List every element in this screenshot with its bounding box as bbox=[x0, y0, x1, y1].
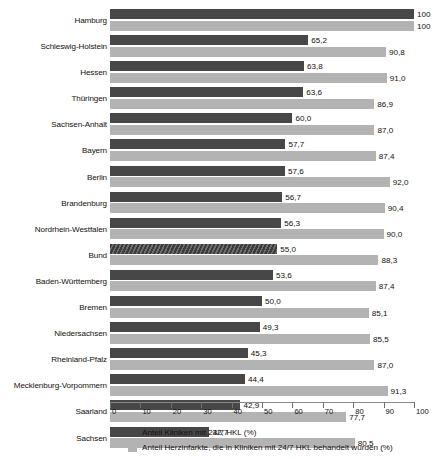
bar-group: 63,686,9 bbox=[110, 87, 374, 110]
chart-row: Thüringen63,686,9 bbox=[0, 86, 437, 112]
x-axis-tick bbox=[110, 402, 111, 408]
x-axis-tick-label: 90 bbox=[386, 407, 394, 416]
legend-swatch-icon bbox=[128, 428, 137, 437]
bar-series-2: 87,0 bbox=[110, 360, 374, 370]
bar-series-2: 91,3 bbox=[110, 386, 388, 396]
bar-series-1: 49,3 bbox=[110, 322, 260, 332]
chart-row: Schleswig-Holstein65,290,8 bbox=[0, 34, 437, 60]
bar-value-label: 56,3 bbox=[284, 218, 300, 227]
chart-row: Bund55,088,3 bbox=[0, 243, 437, 269]
legend-item[interactable]: Anteil Kliniken mit 24/7 HKL (%) bbox=[128, 425, 393, 440]
bar-series-1: 65,2 bbox=[110, 35, 308, 45]
bar-value-label: 91,3 bbox=[391, 386, 407, 395]
bar-group: 60,087,0 bbox=[110, 113, 374, 136]
bar-series-1: 50,0 bbox=[110, 296, 262, 306]
chart-row: Hessen63,891,0 bbox=[0, 60, 437, 86]
bar-group: 44,491,3 bbox=[110, 374, 388, 397]
x-axis: 0102030405060708090100 bbox=[110, 402, 414, 418]
bar-value-label: 53,6 bbox=[276, 270, 292, 279]
bar-series-1: 57,7 bbox=[110, 139, 285, 149]
bar-value-label: 85,5 bbox=[373, 334, 389, 343]
chart-row: Hamburg100100 bbox=[0, 8, 437, 34]
bar-value-label: 90,8 bbox=[389, 47, 405, 56]
x-axis-tick-label: 20 bbox=[173, 407, 181, 416]
bar-value-label: 100 bbox=[417, 10, 431, 19]
chart-row: Bremen50,085,1 bbox=[0, 295, 437, 321]
bar-series-2: 90,8 bbox=[110, 47, 386, 57]
bar-series-1: 44,4 bbox=[110, 374, 245, 384]
bar-group: 56,390,0 bbox=[110, 218, 384, 241]
bar-series-1: 100 bbox=[110, 9, 414, 19]
bar-series-1: 45,3 bbox=[110, 348, 248, 358]
x-axis-tick-label: 100 bbox=[416, 407, 429, 416]
x-axis-tick bbox=[414, 402, 415, 408]
chart-row: Rheinland-Pfalz45,387,0 bbox=[0, 347, 437, 373]
x-axis-tick-label: 50 bbox=[264, 407, 272, 416]
bar-value-label: 57,7 bbox=[288, 140, 304, 149]
bar-group: 50,085,1 bbox=[110, 296, 369, 319]
legend-item[interactable]: Anteil Herzinfarkte, die in Kliniken mit… bbox=[128, 440, 393, 455]
chart-row: Niedersachsen49,385,5 bbox=[0, 321, 437, 347]
chart-row: Nordrhein-Westfalen56,390,0 bbox=[0, 217, 437, 243]
bar-value-label: 91,0 bbox=[390, 73, 406, 82]
category-label: Baden-Württemberg bbox=[36, 269, 107, 295]
bar-group: 65,290,8 bbox=[110, 35, 386, 58]
category-label: Berlin bbox=[87, 165, 107, 191]
bar-value-label: 100 bbox=[417, 21, 431, 30]
chart-row: Sachsen-Anhalt60,087,0 bbox=[0, 112, 437, 138]
bar-series-1: 53,6 bbox=[110, 270, 273, 280]
legend-label: Anteil Kliniken mit 24/7 HKL (%) bbox=[142, 428, 256, 437]
bar-value-label: 45,3 bbox=[251, 349, 267, 358]
bar-group: 100100 bbox=[110, 9, 414, 32]
bar-group: 55,088,3 bbox=[110, 244, 378, 267]
bar-series-2: 88,3 bbox=[110, 255, 378, 265]
bar-series-2: 85,5 bbox=[110, 334, 370, 344]
category-label: Bayern bbox=[82, 138, 107, 164]
x-axis-tick bbox=[232, 402, 233, 408]
legend-label: Anteil Herzinfarkte, die in Kliniken mit… bbox=[142, 443, 393, 452]
bar-value-label: 65,2 bbox=[311, 36, 327, 45]
category-label: Bund bbox=[88, 243, 107, 269]
bar-value-label: 50,0 bbox=[265, 297, 281, 306]
x-axis-tick-label: 40 bbox=[234, 407, 242, 416]
bar-value-label: 87,0 bbox=[377, 125, 393, 134]
bar-value-label: 87,0 bbox=[377, 360, 393, 369]
bar-value-label: 86,9 bbox=[377, 99, 393, 108]
category-label: Rheinland-Pfalz bbox=[51, 347, 107, 373]
x-axis-tick bbox=[384, 402, 385, 408]
bar-value-label: 85,1 bbox=[372, 308, 388, 317]
x-axis-tick bbox=[140, 402, 141, 408]
category-label: Nordrhein-Westfalen bbox=[35, 217, 107, 243]
bar-value-label: 92,0 bbox=[393, 178, 409, 187]
bar-group: 53,687,4 bbox=[110, 270, 376, 293]
category-label: Niedersachsen bbox=[54, 321, 107, 347]
bar-series-2: 90,0 bbox=[110, 229, 384, 239]
x-axis-tick-label: 70 bbox=[325, 407, 333, 416]
bar-series-2: 87,4 bbox=[110, 151, 376, 161]
bar-series-2: 85,1 bbox=[110, 308, 369, 318]
chart-legend: Anteil Kliniken mit 24/7 HKL (%)Anteil H… bbox=[128, 425, 393, 455]
bar-series-2: 91,0 bbox=[110, 73, 387, 83]
x-axis-tick bbox=[201, 402, 202, 408]
x-axis-tick-label: 0 bbox=[112, 407, 116, 416]
chart-row: Baden-Württemberg53,687,4 bbox=[0, 269, 437, 295]
bar-series-2: 86,9 bbox=[110, 99, 374, 109]
category-label: Thüringen bbox=[71, 86, 107, 112]
chart-row: Mecklenburg-Vorpommern44,491,3 bbox=[0, 373, 437, 399]
category-label: Sachsen-Anhalt bbox=[51, 112, 107, 138]
x-axis-tick bbox=[323, 402, 324, 408]
chart-row: Bayern57,787,4 bbox=[0, 138, 437, 164]
category-label: Hessen bbox=[80, 60, 107, 86]
bar-value-label: 90,4 bbox=[388, 204, 404, 213]
category-label: Brandenburg bbox=[61, 191, 107, 217]
category-label: Saarland bbox=[75, 399, 107, 425]
bar-group: 57,787,4 bbox=[110, 139, 376, 162]
bar-group: 57,692,0 bbox=[110, 166, 390, 189]
bar-value-label: 63,6 bbox=[306, 88, 322, 97]
x-axis-tick bbox=[292, 402, 293, 408]
bar-series-2: 87,0 bbox=[110, 125, 374, 135]
chart-row: Brandenburg56,790,4 bbox=[0, 191, 437, 217]
bar-value-label: 49,3 bbox=[263, 323, 279, 332]
chart-row: Berlin57,692,0 bbox=[0, 165, 437, 191]
category-label: Sachsen bbox=[76, 426, 107, 452]
